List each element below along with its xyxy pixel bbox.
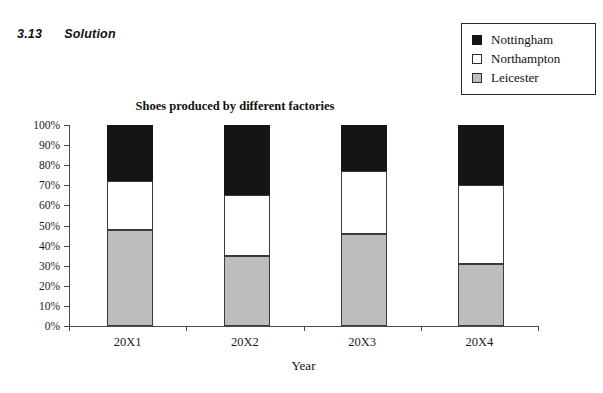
y-axis-tick (64, 165, 69, 166)
x-axis-tick (538, 326, 539, 331)
y-axis-tick-label: 0% (45, 320, 60, 332)
legend-item-nottingham: Nottingham (472, 30, 587, 49)
y-axis-tick (64, 125, 69, 126)
bar-segment-nottingham (341, 125, 387, 171)
legend-item-northampton: Northampton (472, 49, 587, 68)
bar-group (341, 125, 387, 326)
x-axis-tick-label: 20X4 (465, 335, 493, 350)
legend-swatch-nottingham-icon (472, 35, 482, 45)
y-axis-tick-label: 20% (39, 280, 60, 292)
x-axis-tick-label: 20X1 (114, 335, 142, 350)
y-axis-tick (64, 286, 69, 287)
bar-segment-nottingham (107, 125, 153, 181)
bar-segment-northampton (224, 195, 270, 255)
chart-title: Shoes produced by different factories (0, 99, 470, 114)
y-axis-tick-label: 80% (39, 159, 60, 171)
y-axis-tick (64, 205, 69, 206)
legend-label-northampton: Northampton (491, 52, 560, 65)
y-axis-tick-label: 40% (39, 240, 60, 252)
section-heading: 3.13Solution (17, 27, 116, 41)
bar-segment-leicester (341, 234, 387, 326)
y-axis-tick (64, 266, 69, 267)
bar-segment-northampton (107, 181, 153, 229)
bar-segment-leicester (224, 256, 270, 326)
legend-swatch-leicester-icon (472, 73, 482, 83)
y-axis-tick-label: 50% (39, 220, 60, 232)
y-axis-tick (64, 306, 69, 307)
section-number: 3.13 (17, 27, 42, 41)
legend-item-leicester: Leicester (472, 68, 587, 87)
x-axis-title: Year (69, 358, 538, 374)
x-axis-tick (186, 326, 187, 331)
bar-group (458, 125, 504, 326)
bar-segment-leicester (458, 264, 504, 326)
y-axis-tick (64, 246, 69, 247)
y-axis-tick-label: 70% (39, 179, 60, 191)
bar-segment-leicester (107, 230, 153, 326)
x-axis-tick (421, 326, 422, 331)
chart-legend: Nottingham Northampton Leicester (461, 23, 596, 95)
y-axis-tick (64, 185, 69, 186)
y-axis-tick-label: 10% (39, 300, 60, 312)
page-top-partial-text: — — — — —— — — —— — —— (74, 0, 534, 3)
bar-segment-nottingham (458, 125, 504, 185)
y-axis-tick (64, 145, 69, 146)
x-axis-tick-label: 20X2 (231, 335, 259, 350)
y-axis-tick (64, 226, 69, 227)
y-axis-tick-label: 100% (33, 119, 60, 131)
chart-plot-area: 0%10%20%30%40%50%60%70%80%90%100% 20X120… (69, 125, 538, 326)
bar-segment-nottingham (224, 125, 270, 195)
x-axis-tick-label: 20X3 (348, 335, 376, 350)
y-axis-tick-label: 30% (39, 260, 60, 272)
x-axis-tick (304, 326, 305, 331)
y-axis-line (69, 125, 70, 326)
legend-label-leicester: Leicester (491, 71, 539, 84)
bar-segment-northampton (341, 171, 387, 233)
legend-label-nottingham: Nottingham (491, 33, 553, 46)
bar-group (107, 125, 153, 326)
bar-segment-northampton (458, 185, 504, 263)
y-axis-tick-label: 90% (39, 139, 60, 151)
y-axis-tick-label: 60% (39, 199, 60, 211)
x-axis-tick (69, 326, 70, 331)
section-title: Solution (64, 27, 116, 41)
bar-group (224, 125, 270, 326)
legend-swatch-northampton-icon (472, 54, 482, 64)
